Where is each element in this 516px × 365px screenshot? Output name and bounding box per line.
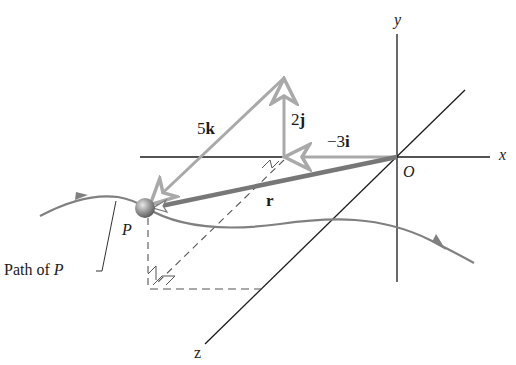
z-axis-label: z <box>194 345 201 361</box>
vector-2j-label: 2j <box>291 111 305 128</box>
path-of-p-variable: P <box>54 261 64 278</box>
vector-2j-coefficient: 2 <box>291 110 300 129</box>
right-angle-mark-upper <box>262 160 279 168</box>
y-axis-label: y <box>394 12 401 28</box>
right-angle-mark-lower-vertical <box>148 266 156 280</box>
path-arrow-right-icon <box>432 234 446 250</box>
vector-5k-coefficient: 5 <box>197 119 206 138</box>
vector-diagram: y x z O 5k 2j −3i r P Path of P <box>0 0 516 365</box>
path-of-p-label: Path of P <box>4 262 64 278</box>
path-label-leader <box>96 201 116 271</box>
vector-r-label: r <box>266 192 274 209</box>
origin-label: O <box>403 164 415 180</box>
vector-minus-3i-coefficient: −3 <box>327 132 345 151</box>
x-axis-label: x <box>499 147 506 163</box>
vector-5k-unit: k <box>206 119 215 138</box>
diagram-svg <box>0 0 516 365</box>
particle-p-ball <box>135 198 155 218</box>
particle-p-label: P <box>122 222 132 238</box>
vector-2j-unit: j <box>300 110 306 129</box>
vector-minus-3i-unit: i <box>345 132 350 151</box>
z-axis <box>205 90 465 344</box>
path-of-p-prefix: Path of <box>4 261 54 278</box>
vector-minus-3i-label: −3i <box>327 133 350 150</box>
vector-5k-label: 5k <box>197 120 215 137</box>
